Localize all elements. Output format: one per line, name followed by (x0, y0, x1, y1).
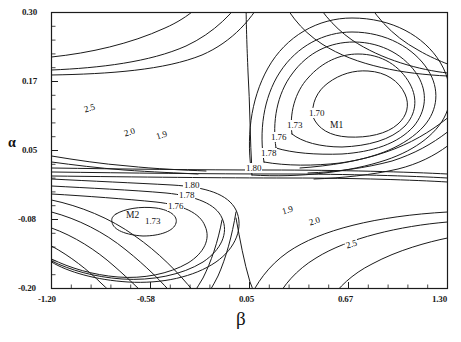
contour-label-1.80-m2: 1.80 (183, 180, 200, 190)
contour-plot-figure: 0.30 0.17 0.05 -0.08 -0.20 -1.20 -0.58 0… (0, 0, 461, 342)
contour-label-1.73-m2: 1.73 (144, 216, 161, 226)
contour-label-1.70-m1: 1.70 (308, 108, 325, 118)
contour-label-1.78-m2: 1.78 (178, 190, 195, 200)
extremum-label-m1: M1 (330, 120, 343, 130)
contour-1.9-upper (52, 0, 267, 75)
contour-lower-left-c (52, 228, 151, 300)
x-tick-label--0.58: -0.58 (137, 294, 155, 304)
contour-label-1.76-m2: 1.76 (167, 201, 184, 211)
contour-2.5-upper-right (276, 0, 448, 76)
x-axis-title: β (236, 308, 246, 330)
contour-axis-band-3 (52, 176, 448, 182)
y-tick-label-0.17: 0.17 (22, 76, 37, 86)
y-axis-title: α (8, 135, 16, 151)
contour-2.0-upper-right (308, 0, 448, 73)
y-tick-label-0.30: 0.30 (22, 7, 37, 17)
x-axis-ticks (52, 282, 448, 289)
contour-saddle-left-1 (204, 212, 236, 300)
contour-lines-group (52, 0, 450, 305)
contour-label-1.76-m1: 1.76 (270, 132, 287, 142)
x-tick-label-0.67: 0.67 (338, 294, 353, 304)
x-tick-label-1.30: 1.30 (432, 294, 447, 304)
contour-label-1.78-m1: 1.78 (260, 148, 277, 158)
y-axis-ticks (52, 13, 59, 289)
extremum-label-m2: M2 (126, 210, 139, 220)
contour-2.5-upper (52, 0, 215, 57)
x-tick-label--1.20: -1.20 (38, 294, 56, 304)
y-tick-label--0.20: -0.20 (18, 283, 36, 293)
contour-1.78-m1 (262, 32, 436, 165)
y-tick-label-0.05: 0.05 (22, 145, 37, 155)
contour-label-1.73-m1: 1.73 (286, 120, 303, 130)
contour-1.73-m1 (291, 54, 415, 147)
x-tick-label-0.05: 0.05 (239, 294, 254, 304)
contour-label-1.80-m1: 1.80 (245, 163, 262, 173)
contour-plot-canvas (0, 0, 461, 342)
contour-2.0-upper (52, 0, 249, 70)
contour-1.70-m1 (313, 71, 408, 137)
y-tick-label--0.08: -0.08 (18, 214, 36, 224)
